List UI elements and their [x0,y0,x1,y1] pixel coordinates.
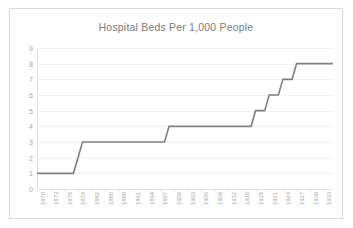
gridline-0 [37,189,333,190]
y-tick-label: 0 [29,186,33,193]
x-tick-label: 1924 [285,192,291,205]
x-tick-label: 1912 [231,192,237,205]
y-tick-label: 7 [29,76,33,83]
x-tick-mark [228,189,229,191]
x-tick-label: 1888 [121,192,127,205]
x-tick-mark [201,189,202,191]
y-tick-label: 5 [29,107,33,114]
x-tick-mark [215,189,216,191]
x-tick-mark [187,189,188,191]
x-tick-label: 1894 [149,192,155,205]
x-tick-mark [146,189,147,191]
x-tick-mark [297,189,298,191]
x-tick-label: 1900 [176,192,182,205]
x-tick-mark [324,189,325,191]
x-tick-mark [283,189,284,191]
x-tick-mark [105,189,106,191]
x-tick-label: 1909 [217,192,223,205]
x-tick-mark [51,189,52,191]
x-tick-label: 1885 [108,192,114,205]
x-tick-mark [242,189,243,191]
y-tick-label: 2 [29,154,33,161]
y-tick-label: 8 [29,60,33,67]
x-tick-label: 1927 [299,192,305,205]
x-tick-mark [310,189,311,191]
x-tick-mark [256,189,257,191]
y-tick-label: 6 [29,92,33,99]
x-tick-label: 1915 [244,192,250,205]
x-tick-label: 1930 [313,192,319,205]
x-tick-label: 1897 [162,192,168,205]
y-tick-label: 1 [29,170,33,177]
x-tick-mark [64,189,65,191]
plot-area: 9876543210 18701873187618791882188518881… [37,48,333,189]
chart-container: Hospital Beds Per 1,000 People 987654321… [9,8,343,219]
x-tick-label: 1876 [67,192,73,205]
y-tick-label: 4 [29,123,33,130]
x-tick-mark [92,189,93,191]
x-tick-label: 1906 [203,192,209,205]
x-tick-label: 1891 [135,192,141,205]
x-tick-mark [119,189,120,191]
x-tick-label: 1879 [80,192,86,205]
x-tick-mark [269,189,270,191]
x-tick-mark [174,189,175,191]
x-tick-mark [160,189,161,191]
x-tick-label: 1933 [326,192,332,205]
y-tick-label: 3 [29,139,33,146]
x-tick-label: 1921 [272,192,278,205]
x-tick-label: 1882 [94,192,100,205]
chart-title: Hospital Beds Per 1,000 People [10,21,342,33]
x-tick-mark [78,189,79,191]
x-tick-mark [37,189,38,191]
x-tick-label: 1870 [40,192,46,205]
x-tick-mark [133,189,134,191]
series-line [37,48,333,189]
y-tick-label: 9 [29,45,33,52]
x-tick-label: 1903 [190,192,196,205]
x-tick-label: 1918 [258,192,264,205]
x-tick-label: 1873 [53,192,59,205]
